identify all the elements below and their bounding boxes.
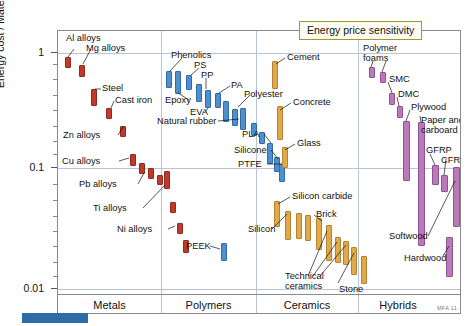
label-al-alloys: Al alloys: [66, 33, 101, 44]
label-steel: Steel: [102, 83, 123, 94]
family-separator-ceramics-hybrids: [358, 31, 359, 313]
y-tick-0.1: 0.1: [10, 161, 44, 173]
bar-eva: [205, 90, 211, 108]
y-tick-0.01: 0.01: [10, 282, 44, 294]
bar-steel: [91, 89, 97, 106]
bar-ti-alloys: [164, 171, 170, 189]
bar-tech-ceramic-3: [343, 241, 349, 265]
label-pp: PP: [201, 70, 213, 81]
label-glass: Glass: [297, 138, 321, 149]
label-ps: PS: [194, 60, 206, 71]
bar-phenolics: [166, 71, 172, 88]
bar-paper-and-cardboard: [418, 122, 425, 246]
bar-natural-rubber: [232, 109, 238, 126]
label-silicone: Silicone: [234, 145, 267, 156]
label-silicon: Silicon: [248, 224, 275, 235]
label-brick: Brick: [316, 209, 337, 220]
bar-softwood: [453, 167, 460, 227]
label-ti-alloys: Ti alloys: [93, 203, 127, 214]
label-zn-alloys: Zn alloys: [63, 130, 100, 141]
plot-area: Al alloys Mg alloys Steel Cast iron Zn a…: [57, 30, 461, 314]
bar-tech-ceramic-2: [335, 237, 341, 263]
label-phenolics: Phenolics: [171, 50, 211, 61]
bar-pa: [215, 93, 221, 108]
bar-polymer-8: [240, 108, 246, 130]
label-smc: SMC: [389, 74, 410, 85]
bar-stone-2: [361, 256, 367, 284]
bar-brick: [316, 218, 322, 250]
label-cast-iron: Cast iron: [115, 95, 152, 106]
label-ptfe: PTFE: [238, 159, 262, 170]
label-peek: PEEK: [186, 241, 211, 252]
label-pb-alloys: Pb alloys: [79, 179, 117, 190]
category-label-polymers: Polymers: [161, 299, 256, 311]
energy-price-sensitivity-chart: Energy cost / Material price ratio 1 0.1…: [0, 0, 465, 326]
label-pa: PA: [231, 80, 243, 91]
bar-pb-alloys-2: [157, 175, 163, 185]
bar-cu-alloys-2: [139, 163, 145, 174]
bar-silicon: [285, 211, 291, 240]
bottom-accent-bar: [22, 313, 88, 323]
bar-concrete: [277, 106, 283, 140]
label-gfrp: GFRP: [426, 145, 452, 156]
label-polyester: Polyester: [244, 89, 283, 100]
bar-zn-alloys: [120, 126, 126, 137]
category-label-metals: Metals: [58, 299, 161, 311]
label-cu-alloys: Cu alloys: [62, 156, 100, 167]
label-stone: Stone: [339, 284, 363, 295]
label-paper-and-cardboard: Paper and carboard: [421, 115, 460, 135]
bar-ni-alloys: [177, 223, 183, 234]
bar-polymer-foams: [369, 67, 375, 78]
bar-ceramic-7: [305, 215, 311, 241]
category-label-hybrids: Hybrids: [358, 299, 438, 311]
label-natural-rubber: Natural rubber: [157, 116, 216, 127]
bar-hardwood: [446, 237, 453, 277]
bar-stone: [351, 247, 357, 275]
y-tick-1: 1: [10, 46, 44, 58]
bar-al-alloys: [65, 57, 71, 68]
category-label-ceramics: Ceramics: [256, 299, 358, 311]
bar-polyester: [223, 101, 229, 122]
bar-cast-iron: [106, 108, 112, 119]
bar-pb-alloys: [148, 168, 154, 179]
label-technical-ceramics: Technical ceramics: [285, 271, 337, 291]
label-hardwood: Hardwood: [404, 253, 446, 264]
gridline-0.01: [58, 289, 460, 290]
label-mg-alloys: Mg alloys: [86, 43, 125, 54]
chart-title: Energy price sensitivity: [299, 21, 422, 40]
bar-cfrp: [441, 175, 448, 192]
bar-ps: [186, 75, 192, 90]
bar-cu-alloys: [130, 154, 136, 166]
label-dmc: DMC: [398, 89, 419, 100]
bar-gfrp: [432, 165, 439, 185]
label-cement: Cement: [287, 52, 320, 63]
bar-peek: [221, 243, 227, 261]
watermark: MFA 11: [437, 305, 457, 311]
label-polymer-foams: Polymer foams: [363, 43, 408, 63]
bar-technical-ceramics: [326, 225, 332, 261]
bar-plywood: [403, 121, 410, 181]
family-separator-polymers-ceramics: [256, 31, 257, 313]
bar-dmc: [397, 106, 403, 118]
category-strip-line: [58, 294, 460, 295]
bar-epoxy: [175, 71, 181, 94]
label-epoxy: Epoxy: [165, 95, 191, 106]
bar-smc: [389, 93, 395, 105]
label-cfrp: CFRP: [441, 155, 460, 166]
bar-pla: [267, 143, 273, 164]
label-pla: PLA: [242, 129, 260, 140]
bar-glass: [282, 147, 288, 168]
label-ni-alloys: Ni alloys: [117, 224, 152, 235]
label-plywood: Plywood: [411, 102, 446, 113]
bar-polymer-foams-2: [380, 72, 386, 83]
bar-mg-alloys: [79, 65, 85, 77]
bar-cement: [272, 61, 278, 89]
label-softwood: Softwood: [389, 231, 428, 242]
y-axis-label: Energy cost / Material price ratio: [0, 0, 6, 88]
bar-ceramic-6: [296, 213, 302, 239]
family-separator-metals-polymers: [161, 31, 162, 313]
label-silicon-carbide: Silicon carbide: [292, 191, 352, 202]
bar-ti-alloys-2: [170, 202, 176, 213]
label-concrete: Concrete: [293, 97, 331, 108]
bar-pp: [196, 84, 202, 102]
